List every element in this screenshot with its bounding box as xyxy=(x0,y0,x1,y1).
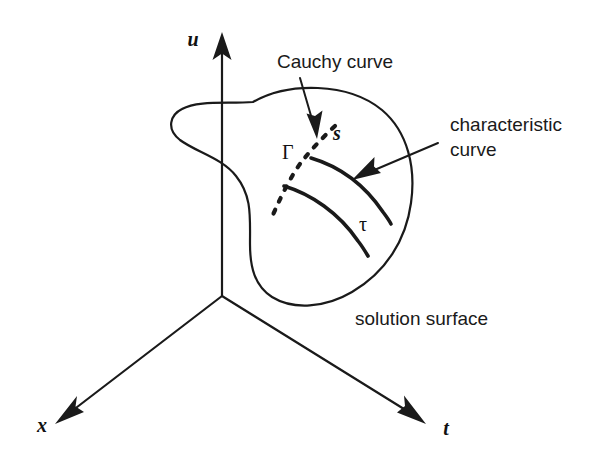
characteristic-curve-label-line2: curve xyxy=(450,139,496,160)
solution-surface-label: solution surface xyxy=(355,308,488,329)
gamma-label: Γ xyxy=(282,141,294,163)
characteristic-leader xyxy=(352,143,438,180)
cauchy-curve-path xyxy=(272,126,335,217)
characteristic-curve-label-line1: characteristic xyxy=(450,114,562,135)
x-axis-label: x xyxy=(36,414,47,436)
figure-canvas: u x t Cauchy curve characteristic curve … xyxy=(0,0,590,462)
s-parameter-label: s xyxy=(332,122,341,144)
pde-solution-surface-diagram: u x t Cauchy curve characteristic curve … xyxy=(0,0,590,462)
u-axis-label: u xyxy=(187,28,198,50)
cauchy-leader-arrowhead xyxy=(307,111,323,140)
tau-parameter-label: τ xyxy=(359,213,367,235)
x-axis-line xyxy=(68,296,222,414)
cauchy-curve-label: Cauchy curve xyxy=(277,51,393,72)
cauchy-curve xyxy=(272,126,335,217)
axis-group xyxy=(55,32,426,424)
solution-surface-outline xyxy=(171,88,412,306)
surface-boundary-path xyxy=(171,88,412,306)
characteristic-curve-lower xyxy=(284,186,368,256)
x-axis-arrowhead xyxy=(55,396,84,424)
t-axis-label: t xyxy=(443,417,450,439)
leader-lines xyxy=(300,78,438,180)
t-axis-arrowhead xyxy=(397,396,426,425)
x-axis xyxy=(55,296,222,424)
